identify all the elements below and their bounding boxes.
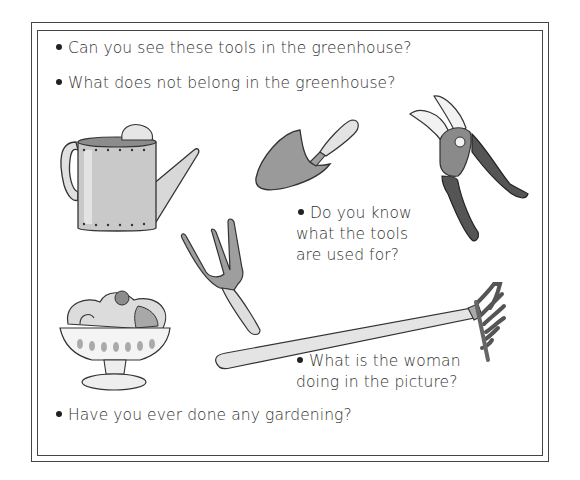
question-3: Do you know what the tools are used for?: [298, 203, 412, 266]
pruning-shears-icon: [400, 92, 540, 252]
rake-icon: [212, 278, 512, 378]
question-2: What does not belong in the greenhouse?: [56, 73, 396, 94]
ice-cream-sundae-icon: [58, 276, 178, 394]
trowel-icon: [252, 108, 362, 198]
bullet-icon: [56, 79, 62, 85]
bullet-icon: [56, 411, 62, 417]
question-1: Can you see these tools in the greenhous…: [56, 38, 412, 59]
question-5: Have you ever done any gardening?: [56, 405, 352, 426]
bullet-icon: [56, 44, 62, 50]
bullet-icon: [298, 209, 304, 215]
